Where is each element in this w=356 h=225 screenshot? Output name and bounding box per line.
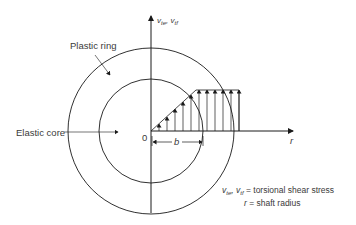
plastic-ring-label: Plastic ring — [70, 41, 116, 51]
stress-axis-label: vte, vtf — [157, 17, 178, 26]
legend-line-2: r = shaft radius — [244, 199, 300, 208]
v-tf-subscript: tf — [174, 20, 177, 26]
stress-arrows — [159, 90, 239, 131]
legend-text-2: = shaft radius — [247, 198, 301, 208]
origin-label: 0 — [142, 133, 147, 143]
legend-line-1: vte, vtf = torsional shear stress — [222, 186, 334, 196]
r-axis-label: r — [290, 136, 293, 146]
legend-text-1: = torsional shear stress — [244, 185, 334, 195]
elastic-core-label: Elastic core — [16, 128, 65, 138]
stress-distribution-outline — [151, 90, 239, 131]
b-label: b — [174, 137, 179, 147]
plastic-ring-leader — [95, 55, 110, 75]
